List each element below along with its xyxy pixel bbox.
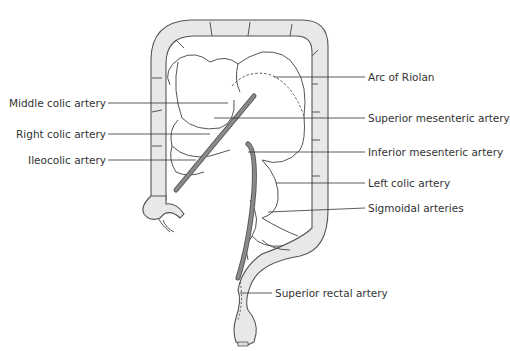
appendix: [158, 218, 174, 232]
label-middle-colic-artery: Middle colic artery: [9, 97, 106, 109]
label-left-colic-artery: Left colic artery: [368, 177, 450, 189]
label-arc-of-riolan: Arc of Riolan: [368, 71, 434, 83]
label-superior-mesenteric-artery: Superior mesenteric artery: [368, 112, 510, 124]
label-inferior-mesenteric-artery: Inferior mesenteric artery: [368, 146, 503, 158]
label-sigmoidal-arteries: Sigmoidal arteries: [368, 202, 464, 214]
marginal-arcades: [152, 22, 320, 260]
anal-canal: [238, 342, 248, 346]
label-superior-rectal-artery: Superior rectal artery: [275, 287, 388, 299]
caecum: [143, 196, 184, 219]
label-ileocolic-artery: Ileocolic artery: [28, 154, 106, 166]
label-right-colic-artery: Right colic artery: [16, 128, 106, 140]
